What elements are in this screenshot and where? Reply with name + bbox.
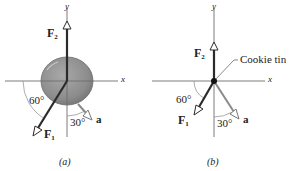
force-f2-label: F2	[47, 27, 58, 41]
cookie-tin-label: Cookie tin	[240, 54, 286, 65]
y-axis-label: y	[212, 2, 216, 11]
angle-30-label: 30°	[70, 117, 85, 128]
force-subscript: 2	[201, 53, 205, 61]
acceleration-label: a	[96, 114, 102, 125]
cookie-tin-point	[211, 78, 217, 84]
acceleration-arrow	[214, 81, 234, 112]
x-axis-label: x	[121, 75, 125, 84]
free-body-diagrams	[0, 0, 296, 171]
force-f1-arrow	[199, 81, 214, 107]
force-subscript: 1	[51, 134, 55, 142]
force-subscript: 2	[54, 33, 58, 41]
angle-60-label: 60°	[29, 95, 44, 106]
force-f2-label: F2	[194, 47, 205, 61]
angle-arc-60	[194, 81, 204, 98]
acceleration-arrow	[78, 104, 86, 113]
arrowhead-icon	[194, 105, 203, 115]
angle-30-label: 30°	[217, 118, 232, 129]
arrowhead-icon	[210, 42, 218, 50]
angle-60-label: 60°	[176, 94, 191, 105]
force-f1-label: F1	[178, 114, 189, 128]
caption-a: (a)	[59, 157, 71, 167]
acceleration-label: a	[243, 114, 249, 125]
force-subscript: 1	[185, 120, 189, 128]
caption-b: (b)	[207, 157, 219, 167]
y-axis-label: y	[65, 2, 69, 11]
x-axis-label: x	[268, 75, 272, 84]
force-f1-label: F1	[44, 128, 55, 142]
arrowhead-icon	[63, 21, 71, 29]
arrowhead-icon	[33, 126, 42, 136]
cookie-tin-leader	[214, 60, 234, 81]
